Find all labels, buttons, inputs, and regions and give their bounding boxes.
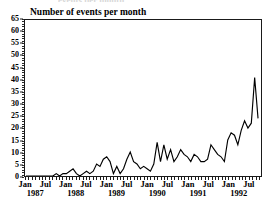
y-axis-tick-mark [20,55,23,56]
y-axis-tick-mark [20,31,23,32]
y-axis-tick-label: 50 [11,51,19,59]
y-axis-tick-mark [20,152,23,153]
x-axis-year-label: 1992 [230,189,247,198]
x-axis-year-label: 1988 [67,189,84,198]
y-axis-tick-label: 25 [11,112,19,120]
x-axis-year-labels: 198719881989199019911992 [0,189,271,199]
y-axis-tick-label: 15 [11,137,19,145]
y-axis-tick-label: 35 [11,88,19,96]
y-axis-tick-label: 55 [11,39,19,47]
y-axis-tick-mark [20,104,23,105]
y-axis-tick-mark [20,91,23,92]
y-axis-tick-label: 10 [11,149,19,157]
y-axis-tick-mark [20,79,23,80]
chart-figure: events per month Number of events per mo… [0,0,271,199]
y-axis-tick-label: 40 [11,76,19,84]
y-axis: 05101520253035404550556065 [0,19,23,177]
y-axis-tick-mark [20,177,23,178]
clipped-caption-text: events per month [58,0,218,2]
chart-title: Number of events per month [30,7,146,17]
plot-area [24,19,262,177]
x-axis-year-label: 1991 [189,189,206,198]
y-axis-tick-label: 60 [11,27,19,35]
x-axis-year-label: 1987 [27,189,44,198]
y-axis-tick-mark [20,116,23,117]
y-axis-tick-mark [20,128,23,129]
y-axis-tick-mark [20,67,23,68]
events-per-month-line [26,78,258,176]
y-axis-tick-mark [20,164,23,165]
y-axis-tick-mark [20,19,23,20]
x-axis-year-label: 1990 [149,189,166,198]
y-axis-tick-label: 30 [11,100,19,108]
y-axis-tick-mark [20,43,23,44]
y-axis-tick-mark [20,140,23,141]
series-line [25,20,261,176]
y-axis-tick-label: 65 [11,15,19,23]
y-axis-tick-label: 5 [15,161,19,169]
y-axis-tick-label: 20 [11,124,19,132]
y-axis-tick-label: 45 [11,64,19,72]
x-axis-year-label: 1989 [108,189,125,198]
